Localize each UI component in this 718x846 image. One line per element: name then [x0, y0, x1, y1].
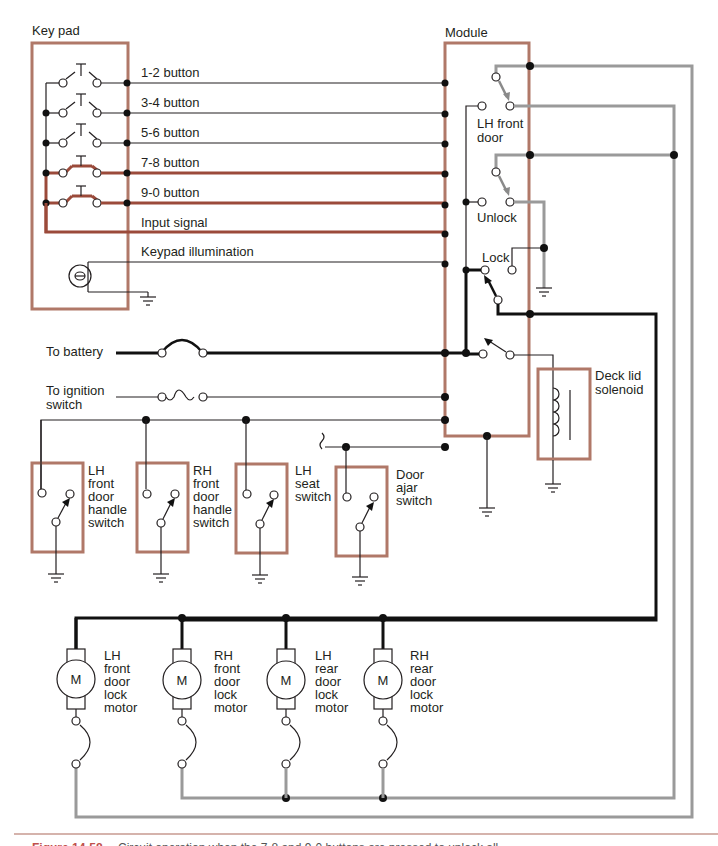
ground-icon: [536, 288, 552, 296]
fuse-icon: [162, 340, 202, 352]
ground-icon: [352, 577, 368, 585]
battery-feed: To battery: [46, 340, 470, 359]
motor-rh-rear-door-lock: M RH rear door lock motor: [364, 618, 444, 798]
label-to-ignition-1: To ignition: [46, 383, 105, 398]
button-switch-1-2: [59, 64, 101, 87]
ground-icon: [140, 292, 156, 305]
label-5-6-button: 5-6 button: [141, 125, 200, 140]
deck-lid-label-1: Deck lid: [595, 368, 641, 383]
svg-text:motor: motor: [104, 700, 138, 715]
svg-text:M: M: [177, 673, 188, 688]
svg-text:motor: motor: [410, 700, 444, 715]
ground-icon: [153, 574, 169, 582]
label-7-8-button: 7-8 button: [141, 155, 200, 170]
relay-unlock-label: Unlock: [477, 210, 517, 225]
relay-lh-front-door-label-1: LH front: [477, 116, 524, 131]
ground-icon: [479, 508, 495, 516]
ground-icon: [545, 484, 561, 492]
fuse-icon: [166, 390, 194, 400]
relay-unlock: Unlock: [463, 151, 679, 296]
label-3-4-button: 3-4 button: [141, 95, 200, 110]
module-box: [445, 43, 529, 436]
svg-text:switch: switch: [295, 489, 331, 504]
svg-text:M: M: [281, 673, 292, 688]
deck-lid-label-2: solenoid: [595, 382, 643, 397]
svg-text:switch: switch: [193, 515, 229, 530]
caption-text: Circuit operation when the 7-8 and 9-0 b…: [118, 841, 508, 846]
relay-lock-label: Lock: [482, 250, 510, 265]
svg-text:motor: motor: [315, 700, 349, 715]
motor-rh-front-door-lock: M RH front door lock motor: [163, 618, 248, 768]
switch-door-ajar: Door ajar switch: [336, 447, 432, 585]
button-switch-5-6: [59, 124, 101, 147]
relay-lock: Lock: [180, 244, 656, 620]
label-keypad-illumination: Keypad illumination: [141, 244, 254, 259]
button-switch-9-0: [59, 186, 101, 207]
relay-deck-lid: [466, 338, 553, 460]
svg-text:switch: switch: [88, 515, 124, 530]
switch-lh-front-door-handle: LH front door handle switch: [32, 420, 127, 582]
figure-caption: Figure 14-58 Circuit operation when the …: [14, 834, 718, 846]
button-switch-7-8: [59, 156, 101, 177]
label-input-signal: Input signal: [141, 215, 208, 230]
svg-text:motor: motor: [214, 700, 248, 715]
switch-lh-seat: LH seat switch: [236, 420, 331, 583]
deck-lid-solenoid: Deck lid solenoid: [538, 368, 643, 492]
ignition-feed: To ignition switch: [46, 383, 449, 412]
label-9-0-button: 9-0 button: [141, 185, 200, 200]
relay-lh-front-door-label-2: door: [477, 130, 504, 145]
motor-lh-front-door-lock: M LH front door lock motor: [57, 618, 138, 768]
ground-icon: [252, 575, 268, 583]
keypad-title: Key pad: [32, 23, 80, 38]
label-to-battery: To battery: [46, 344, 104, 359]
svg-text:switch: switch: [396, 493, 432, 508]
keypad: Key pad: [32, 23, 156, 309]
caption-figure-number: Figure 14-58: [32, 841, 103, 846]
keypad-lamp-icon: [69, 262, 148, 292]
keypad-signal-lines: 1-2 button 3-4 button 5-6 button 7-8 but…: [46, 65, 445, 262]
svg-text:M: M: [71, 672, 82, 687]
motor-lh-rear-door-lock: M LH rear door lock motor: [267, 618, 349, 798]
module-title: Module: [445, 25, 488, 40]
label-to-ignition-2: switch: [46, 397, 82, 412]
button-switch-3-4: [59, 94, 101, 117]
label-1-2-button: 1-2 button: [141, 65, 200, 80]
wiring-diagram: Key pad: [0, 0, 718, 846]
ground-icon: [48, 574, 64, 582]
switch-rh-front-door-handle: RH front door handle switch: [137, 420, 232, 582]
svg-text:M: M: [378, 673, 389, 688]
